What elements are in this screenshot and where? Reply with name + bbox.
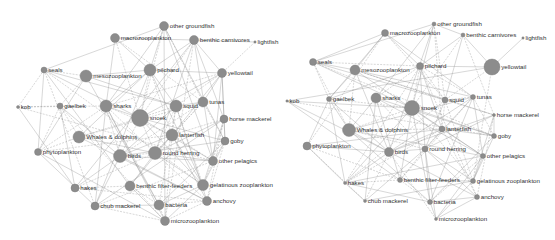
node-bacteria[interactable]: bacteria [154, 200, 188, 210]
node-circle[interactable] [435, 218, 438, 221]
node-birds[interactable]: birds [385, 148, 409, 157]
node-circle[interactable] [344, 182, 347, 185]
node-circle[interactable] [35, 149, 42, 156]
node-yellowtail[interactable]: yellowtail [484, 59, 526, 75]
node-circle[interactable] [461, 33, 465, 37]
node-hakes[interactable]: hakes [71, 184, 97, 192]
node-circle[interactable] [198, 180, 209, 191]
node-circle[interactable] [481, 154, 486, 159]
node-circle[interactable] [432, 22, 436, 26]
node-circle[interactable] [422, 146, 428, 152]
node-lanterfish[interactable]: lanterfish [439, 125, 472, 132]
node-circle[interactable] [417, 63, 424, 70]
node-kob[interactable]: kob [17, 103, 32, 110]
node-circle[interactable] [484, 59, 500, 75]
node-benthic-filter-feeders[interactable]: benthic filter-feeders [125, 181, 192, 191]
node-circle[interactable] [493, 114, 496, 117]
node-circle[interactable] [114, 150, 127, 163]
node-chub-mackerel[interactable]: chub mackerel [364, 197, 408, 204]
node-circle[interactable] [254, 41, 256, 43]
node-circle[interactable] [382, 30, 389, 37]
node-circle[interactable] [203, 197, 212, 206]
node-circle[interactable] [221, 137, 229, 145]
node-circle[interactable] [439, 126, 445, 132]
node-other-pelagics[interactable]: other pelagics [481, 152, 526, 159]
node-circle[interactable] [209, 157, 218, 166]
node-circle[interactable] [80, 70, 92, 82]
node-circle[interactable] [218, 69, 227, 78]
node-macrozooplankton[interactable]: macrozooplankton [111, 34, 172, 43]
node-circle[interactable] [398, 178, 403, 183]
node-gelatinous-zooplankton[interactable]: gelatinous zooplankton [471, 177, 541, 184]
node-circle[interactable] [471, 95, 476, 100]
node-benthic-carnivores[interactable]: benthic carnivores [461, 31, 516, 38]
node-goby[interactable]: goby [492, 132, 513, 139]
node-circle[interactable] [190, 36, 199, 45]
node-sharks[interactable]: sharks [371, 93, 400, 103]
node-other-groundfish[interactable]: other groundfish [432, 20, 482, 27]
node-circle[interactable] [154, 200, 164, 210]
node-circle[interactable] [310, 59, 317, 66]
node-anchovy[interactable]: anchovy [203, 197, 237, 206]
node-circle[interactable] [522, 37, 524, 39]
node-circle[interactable] [144, 64, 156, 76]
node-phytoplankton[interactable]: phytoplankton [35, 148, 82, 156]
node-circle[interactable] [166, 129, 178, 141]
node-circle[interactable] [57, 103, 63, 109]
node-other-pelagics[interactable]: other pelagics [209, 157, 258, 166]
node-goby[interactable]: goby [221, 137, 245, 145]
node-microzooplankton[interactable]: microzooplankton [435, 215, 488, 222]
node-macrozooplankton[interactable]: macrozooplankton [382, 29, 441, 37]
node-lightfish[interactable]: lightfish [522, 34, 547, 41]
node-circle[interactable] [286, 100, 288, 102]
node-chub-mackerel[interactable]: chub mackerel [91, 202, 140, 210]
node-anchovy[interactable]: anchovy [475, 193, 505, 200]
node-round-herring[interactable]: round herring [422, 145, 467, 152]
node-circle[interactable] [343, 124, 356, 137]
node-circle[interactable] [405, 101, 420, 116]
node-circle[interactable] [220, 115, 228, 123]
node-circle[interactable] [73, 131, 85, 143]
node-circle[interactable] [41, 67, 47, 73]
node-gaelbek[interactable]: gaelbek [57, 102, 87, 109]
node-pilchard[interactable]: pilchard [144, 64, 179, 76]
node-benthic-carnivores[interactable]: benthic carnivores [190, 36, 250, 45]
node-circle[interactable] [132, 110, 149, 127]
node-circle[interactable] [385, 148, 394, 157]
node-mesozooplankton[interactable]: mesozooplankton [350, 65, 410, 75]
node-horse-mackerel[interactable]: horse mackerel [493, 111, 540, 118]
node-circle[interactable] [471, 179, 476, 184]
node-circle[interactable] [327, 97, 332, 102]
node-circle[interactable] [428, 200, 433, 205]
node-circle[interactable] [125, 181, 135, 191]
node-circle[interactable] [371, 93, 381, 103]
node-microzooplankton[interactable]: microzooplankton [161, 217, 220, 226]
node-tunas[interactable]: tunas [471, 93, 492, 100]
node-pilchard[interactable]: pilchard [417, 62, 447, 70]
node-circle[interactable] [303, 142, 311, 150]
node-circle[interactable] [170, 100, 182, 112]
node-circle[interactable] [350, 65, 360, 75]
node-tunas[interactable]: tunas [198, 97, 224, 107]
node-other-groundfish[interactable]: other groundfish [160, 22, 215, 31]
node-birds[interactable]: birds [114, 150, 142, 163]
node-circle[interactable] [160, 22, 169, 31]
node-squid[interactable]: squid [170, 100, 199, 112]
node-gelatinous-zooplankton[interactable]: gelatinous zooplankton [198, 180, 274, 191]
node-circle[interactable] [161, 217, 170, 226]
node-circle[interactable] [442, 97, 448, 103]
node-circle[interactable] [198, 97, 208, 107]
node-circle[interactable] [475, 195, 480, 200]
node-yellowtail[interactable]: yellowtail [218, 69, 253, 78]
node-bacteria[interactable]: bacteria [428, 198, 457, 205]
node-circle[interactable] [100, 100, 112, 112]
node-lightfish[interactable]: lightfish [254, 38, 279, 45]
node-benthic-filter-feeders[interactable]: benthic filter-feeders [398, 176, 460, 183]
node-circle[interactable] [71, 184, 79, 192]
node-seals[interactable]: seals [310, 58, 333, 66]
node-circle[interactable] [91, 202, 99, 210]
node-circle[interactable] [364, 200, 367, 203]
node-circle[interactable] [17, 106, 20, 109]
node-seals[interactable]: seals [41, 66, 63, 73]
node-round-herring[interactable]: round herring [149, 147, 201, 160]
